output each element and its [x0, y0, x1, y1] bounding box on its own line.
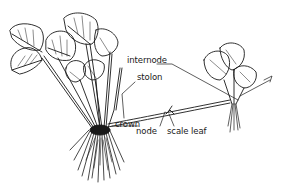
leader-lines [112, 64, 238, 126]
plant-drawing [0, 0, 287, 187]
petioles [42, 44, 122, 128]
label-internode: internode [127, 56, 167, 65]
mother-plant-leaves [10, 13, 118, 82]
crown-and-roots [70, 125, 124, 182]
label-scale-leaf: scale leaf [167, 127, 206, 136]
label-stolon: stolon [137, 73, 162, 82]
label-crown: crown [115, 120, 140, 129]
daughter-plant [204, 43, 256, 132]
strawberry-plant-diagram: internode stolon node scale leaf crown [0, 0, 287, 187]
